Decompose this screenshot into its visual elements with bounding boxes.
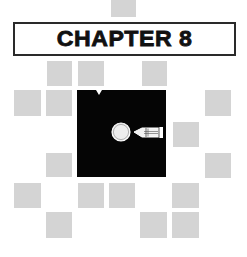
illustration-art bbox=[0, 0, 247, 257]
bullet-icon bbox=[134, 127, 163, 138]
ball-icon bbox=[112, 123, 130, 141]
